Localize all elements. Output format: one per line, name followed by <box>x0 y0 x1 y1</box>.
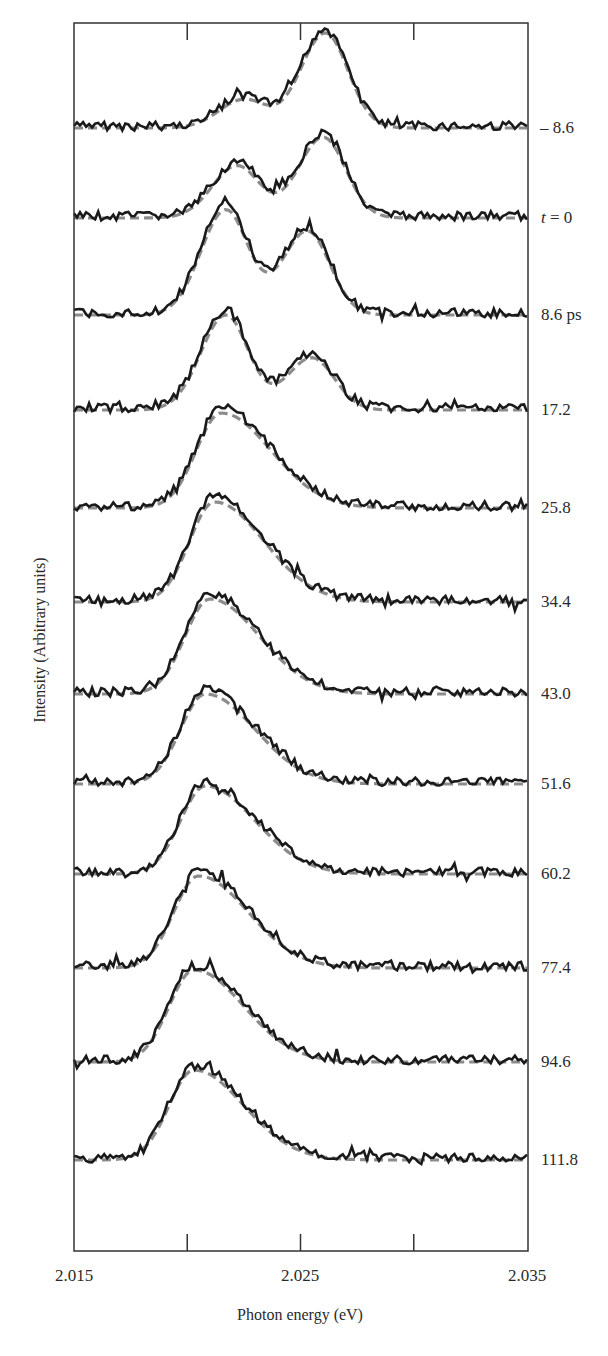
fit-curve <box>74 210 527 315</box>
measured-spectrum <box>74 593 527 700</box>
measured-spectrum <box>74 197 527 319</box>
fit-curve <box>74 33 527 128</box>
fit-curve <box>74 599 527 694</box>
x-tick-label-2.025: 2.025 <box>281 1266 319 1286</box>
trace-label: 111.8 <box>541 1150 578 1170</box>
trace-label: 43.0 <box>541 684 571 704</box>
measured-spectrum <box>74 494 527 611</box>
measured-spectrum <box>74 868 527 972</box>
fit-curve <box>74 315 527 410</box>
x-tick-label-2.035: 2.035 <box>508 1266 546 1286</box>
trace-label: 60.2 <box>541 864 571 884</box>
fit-curve <box>74 502 527 602</box>
trace-label: 77.4 <box>541 958 571 978</box>
trace-label: 94.6 <box>541 1052 571 1072</box>
trace-label: 17.2 <box>541 400 571 420</box>
spectra-traces <box>74 29 527 1165</box>
fit-curve <box>74 694 527 784</box>
trace-label: 8.6 ps <box>541 305 582 325</box>
trace-label: – 8.6 <box>540 118 574 138</box>
measured-spectrum <box>74 130 527 221</box>
fit-curve <box>74 413 527 508</box>
measured-spectrum <box>74 1062 527 1164</box>
trace-label: t = 0 <box>541 208 572 228</box>
measured-spectrum <box>74 405 527 511</box>
plot-frame <box>74 23 528 1251</box>
trace-label: 25.8 <box>541 498 571 518</box>
measured-spectrum <box>74 779 527 881</box>
axis-ticks <box>187 23 414 1251</box>
y-axis-label: Intensity (Arbitrary units) <box>31 557 49 722</box>
trace-label: 34.4 <box>541 592 571 612</box>
measured-spectrum <box>74 308 527 413</box>
fit-curve <box>74 876 527 968</box>
measured-spectrum <box>74 29 527 131</box>
x-tick-label-2.015: 2.015 <box>55 1266 93 1286</box>
trace-label: 51.6 <box>541 774 571 794</box>
fit-curve <box>74 137 527 218</box>
spectra-chart <box>0 0 608 1356</box>
x-axis-label: Photon energy (eV) <box>237 1306 363 1324</box>
